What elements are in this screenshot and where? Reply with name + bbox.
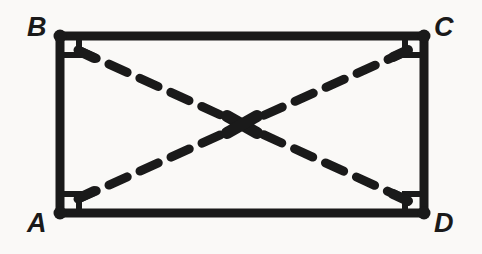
diagonal-stub-D [393, 194, 408, 201]
vertex-dot-D [418, 207, 431, 220]
geometry-figure: B C A D [0, 0, 482, 254]
vertex-dot-A [54, 207, 67, 220]
vertex-label-B: B [27, 14, 47, 41]
vertex-label-C: C [434, 14, 454, 41]
geometry-canvas [0, 0, 482, 254]
vertex-dot-C [418, 30, 431, 43]
vertex-label-A: A [27, 210, 47, 237]
diagonal-intersection-mark [227, 116, 257, 133]
vertex-label-D: D [434, 210, 454, 237]
diagonal-stub-C [393, 50, 408, 57]
diagonal-stub-A [79, 191, 94, 198]
diagonal-stub-B [79, 51, 94, 58]
vertex-dot-B [54, 30, 67, 43]
